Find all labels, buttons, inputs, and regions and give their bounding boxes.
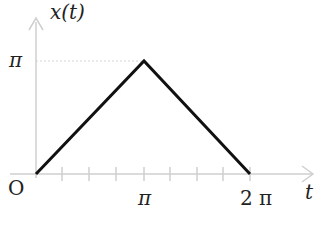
y-axis-label: x(t) <box>50 0 85 24</box>
origin-label: O <box>8 176 24 200</box>
x-axis-label: t <box>305 180 313 204</box>
triangle-wave-line <box>36 61 250 174</box>
triangle-wave-plot <box>0 0 334 236</box>
x-tick-pi: π <box>138 186 151 210</box>
y-tick-pi: π <box>9 48 22 72</box>
x-tick-2pi: 2 π <box>240 186 272 210</box>
